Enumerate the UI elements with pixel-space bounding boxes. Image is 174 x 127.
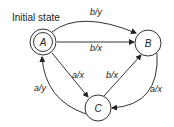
edge-label-a-b-bx: b/x <box>90 43 103 53</box>
state-c-label: C <box>94 103 102 114</box>
edge-label-c-b-bx: b/x <box>106 70 119 80</box>
state-c: C <box>85 95 111 121</box>
initial-state-label: Initial state <box>12 12 60 23</box>
edge-label-a-c-ax: a/x <box>72 70 85 80</box>
state-a: A <box>30 29 56 55</box>
edge-label-b-c-ax: a/x <box>150 84 163 94</box>
edge-b-to-c-ax <box>112 53 157 108</box>
edge-a-to-b-by <box>52 21 136 33</box>
state-a-label: A <box>39 37 47 48</box>
edge-label-a-b-by: b/y <box>90 7 103 17</box>
state-diagram: Initial state b/y b/x a/x a/y b/x a/x A … <box>0 0 174 127</box>
edge-c-to-a-ay <box>42 57 86 114</box>
state-b-label: B <box>145 38 152 49</box>
state-b: B <box>135 30 161 56</box>
edge-label-c-a-ay: a/y <box>34 83 47 93</box>
